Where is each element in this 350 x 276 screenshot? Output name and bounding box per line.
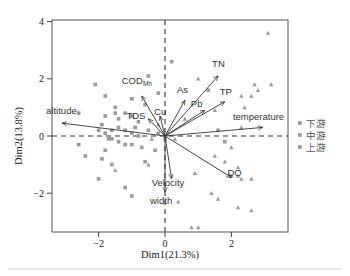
square-point xyxy=(93,83,97,87)
square-point xyxy=(157,91,161,95)
square-point xyxy=(110,163,114,167)
triangle-point xyxy=(256,88,260,92)
triangle-point xyxy=(266,31,270,35)
pca-biplot: TNTPPbAsCODMnTDSCualtitudetemperatureDOV… xyxy=(0,0,350,276)
triangle-point xyxy=(236,205,240,209)
triangle-point xyxy=(249,94,253,98)
square-point xyxy=(103,94,107,98)
y-tick-label: 0 xyxy=(39,131,44,142)
square-point xyxy=(107,137,111,141)
triangle-point xyxy=(196,225,200,229)
vector-label-temperature: temperature xyxy=(233,111,284,122)
y-axis-label: Dim2(13.8%) xyxy=(13,106,25,165)
square-point xyxy=(123,186,127,190)
square-point xyxy=(133,126,137,130)
square-point xyxy=(117,117,121,121)
triangle-point xyxy=(223,160,227,164)
triangle-point xyxy=(183,117,187,121)
square-point xyxy=(123,143,127,147)
vector-label-altitude: altitude xyxy=(46,105,77,116)
triangle-point xyxy=(242,105,246,109)
square-point xyxy=(97,177,101,181)
square-point xyxy=(117,140,121,144)
triangle-point xyxy=(173,137,177,141)
figure-caption-cropped xyxy=(8,268,342,270)
square-point xyxy=(77,143,81,147)
vector-velocity xyxy=(165,136,172,179)
square-point xyxy=(157,131,161,135)
legend-marker xyxy=(298,145,302,149)
square-point xyxy=(110,137,114,141)
square-point xyxy=(103,149,107,153)
square-point xyxy=(113,106,117,110)
square-point xyxy=(130,143,134,147)
square-point xyxy=(113,111,117,115)
square-point xyxy=(103,114,107,118)
square-point xyxy=(140,146,144,150)
square-point xyxy=(97,128,101,132)
triangle-point xyxy=(150,137,154,141)
y-tick-label: −2 xyxy=(33,188,44,199)
triangle-point xyxy=(239,94,243,98)
triangle-point xyxy=(249,177,253,181)
triangle-point xyxy=(193,171,197,175)
triangle-point xyxy=(113,168,117,172)
triangle-point xyxy=(249,208,253,212)
vector-label-tp: TP xyxy=(220,86,232,97)
square-point xyxy=(223,140,227,144)
square-point xyxy=(153,149,157,153)
square-point xyxy=(137,134,141,138)
legend-marker xyxy=(298,133,302,137)
square-point xyxy=(100,157,104,161)
square-point xyxy=(84,154,88,158)
square-point xyxy=(77,111,81,115)
triangle-point xyxy=(216,197,220,201)
x-tick-label: −2 xyxy=(93,238,104,249)
square-point xyxy=(147,74,151,78)
vector-temperature xyxy=(165,127,263,136)
square-point xyxy=(130,194,134,198)
legend-label: 上游 xyxy=(306,142,326,153)
triangle-point xyxy=(196,77,200,81)
triangle-point xyxy=(176,200,180,204)
vector-label-tn: TN xyxy=(212,58,225,69)
legend-label: 下游 xyxy=(306,118,326,129)
triangle-point xyxy=(229,145,233,149)
legend-marker xyxy=(298,121,302,125)
square-point xyxy=(100,123,104,127)
x-axis-label: Dim1(21.3%) xyxy=(141,249,200,261)
square-point xyxy=(103,131,107,135)
x-tick-label: 0 xyxy=(163,238,168,249)
vector-label-pb: Pb xyxy=(191,98,203,109)
y-tick-label: 2 xyxy=(39,73,44,84)
vector-label-do: DO xyxy=(227,167,241,178)
legend: 下游中游上游 xyxy=(298,118,326,153)
square-point xyxy=(143,160,147,164)
legend-label: 中游 xyxy=(306,130,326,141)
square-point xyxy=(147,128,151,132)
x-tick-label: 2 xyxy=(229,238,234,249)
vector-label-velocity: Velocity xyxy=(152,177,185,188)
triangle-point xyxy=(213,154,217,158)
vector-do xyxy=(165,136,231,177)
triangle-point xyxy=(209,191,213,195)
vector-label-cu: Cu xyxy=(154,106,166,117)
x-axis-ticks: −202 xyxy=(93,232,234,249)
square-point xyxy=(117,126,121,130)
vector-label-width: width xyxy=(149,195,172,206)
vector-label-tds: TDS xyxy=(126,110,145,121)
y-tick-label: 4 xyxy=(39,16,44,27)
square-point xyxy=(170,60,174,64)
triangle-point xyxy=(189,225,193,229)
square-point xyxy=(130,97,134,101)
triangle-point xyxy=(252,82,256,86)
vector-label-as: As xyxy=(177,84,188,95)
triangle-point xyxy=(269,82,273,86)
triangle-point xyxy=(239,125,243,129)
